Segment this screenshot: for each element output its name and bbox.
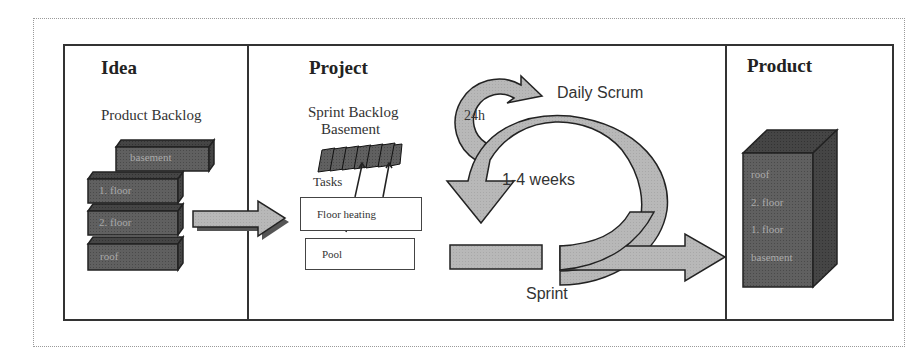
brick-label-1-floor: 1. floor bbox=[99, 184, 131, 196]
sprint-cycle-label: 1-4 weeks bbox=[502, 171, 575, 189]
brick-label-2-floor: 2. floor bbox=[99, 216, 131, 228]
sprint-label: Sprint bbox=[526, 285, 568, 303]
product-floor-2: 2. floor bbox=[751, 196, 783, 208]
idea-to-project-arrow-icon bbox=[193, 201, 289, 240]
sprint-bar bbox=[450, 245, 542, 269]
sprint-to-product-arrow-icon bbox=[560, 212, 725, 281]
brick-label-roof: roof bbox=[100, 250, 118, 262]
product-backlog-label: Product Backlog bbox=[101, 107, 201, 124]
task-floor-heating: Floor heating bbox=[300, 197, 422, 231]
product-heading: Product bbox=[747, 55, 812, 77]
product-floor-basement: basement bbox=[751, 251, 793, 263]
brick-label-basement: basement bbox=[130, 151, 172, 163]
product-floor-roof: roof bbox=[751, 168, 769, 180]
product-floor-1: 1. floor bbox=[751, 223, 783, 235]
daily-scrum-label: Daily Scrum bbox=[557, 84, 643, 102]
task-label: Pool bbox=[322, 248, 342, 260]
diagram-graphics bbox=[0, 0, 922, 360]
task-pool: Pool bbox=[305, 238, 415, 270]
tasks-label: Tasks bbox=[313, 174, 342, 190]
daily-cycle-label: 24h bbox=[464, 108, 485, 124]
task-label: Floor heating bbox=[317, 208, 376, 220]
sprint-backlog-item-label: Basement bbox=[321, 121, 380, 138]
project-heading: Project bbox=[309, 57, 368, 79]
idea-heading: Idea bbox=[101, 57, 137, 79]
product-building bbox=[743, 130, 837, 287]
sprint-backlog-label: Sprint Backlog bbox=[308, 104, 398, 121]
